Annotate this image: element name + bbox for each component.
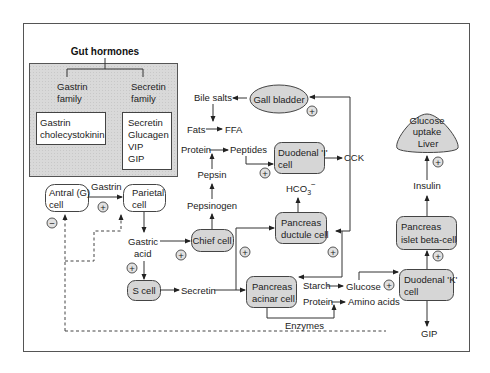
svg-text:islet beta-cell: islet beta-cell [401,234,456,245]
gastrin-family-member: cholecystokinin [40,129,104,140]
gut-hormones-diagram: Gut hormones Gastrin family Secretin fam… [0,0,490,373]
secretin-label: Secretin [181,285,216,296]
antral-g-cell: Antral (G) cell [46,185,91,212]
s-cell: S cell [128,281,161,301]
svg-text:ductule cell: ductule cell [281,229,329,240]
gastric-acid-label: Gastric [128,236,158,247]
secretin-family-label: Secretin [131,81,166,92]
svg-text:Duodenal 'K': Duodenal 'K' [404,274,457,285]
svg-text:acinar cell: acinar cell [252,293,295,304]
gastrin-label: Gastrin [91,181,122,192]
svg-text:cell: cell [404,286,418,297]
amino-acids-label: Amino acids [348,296,400,307]
parietal-cell: Parietal cell [124,185,166,212]
gastrin-family-member: Gastrin [40,117,71,128]
svg-text:Chief cell: Chief cell [192,235,231,246]
svg-text:uptake: uptake [413,126,442,137]
svg-text:Pancreas: Pancreas [401,221,441,232]
svg-text:+: + [435,251,441,262]
svg-text:cell: cell [132,199,146,210]
svg-text:+: + [178,250,184,261]
secretin-family-member: Secretin [128,117,163,128]
svg-text:+: + [386,280,392,291]
svg-text:+: + [435,157,441,168]
svg-text:Glucose: Glucose [410,115,445,126]
svg-text:+: + [100,202,106,213]
pancreas-ductule-cell: Pancreas ductule cell [276,213,329,244]
fats-label: Fats [187,124,206,135]
bile-salts-label: Bile salts [194,92,232,103]
glucose-label: Glucose [346,281,381,292]
svg-text:Parietal: Parietal [132,187,164,198]
secretin-family-member: VIP [128,141,143,152]
duodenal-k-cell: Duodenal 'K' cell [400,270,458,301]
insulin-label: Insulin [413,180,440,191]
cck-label: CCK [344,152,365,163]
svg-text:acid: acid [134,248,151,259]
svg-text:S cell: S cell [132,285,155,296]
svg-text:+: + [262,168,268,179]
svg-text:−: − [49,218,55,229]
starch-label: Starch [303,280,330,291]
enzymes-label: Enzymes [285,320,324,331]
svg-text:family: family [131,93,156,104]
svg-text:+: + [309,106,315,117]
svg-text:cell: cell [278,159,292,170]
svg-text:cell: cell [49,199,63,210]
protein-label: Protein [181,144,211,155]
secretin-family-member: GIP [128,153,144,164]
svg-text:Gall bladder: Gall bladder [253,94,304,105]
gastrin-family-label: Gastrin [57,81,88,92]
gall-bladder: Gall bladder [250,85,308,113]
svg-text:family: family [57,93,82,104]
pancreas-acinar-cell: Pancreas acinar cell [247,277,297,308]
svg-text:Antral (G): Antral (G) [49,187,90,198]
legend-title: Gut hormones [71,46,140,57]
svg-text:Duodenal 'I': Duodenal 'I' [278,147,328,158]
svg-text:+: + [242,247,248,258]
pepsinogen-label: Pepsinogen [187,200,237,211]
peptides-label: Peptides [230,144,267,155]
gut-hormones-legend: Gut hormones Gastrin family Secretin fam… [30,46,178,177]
svg-text:Liver: Liver [418,138,439,149]
ffa-label: FFA [225,124,243,135]
protein-bottom-label: Protein [303,296,333,307]
chief-cell: Chief cell [192,230,234,252]
svg-text:+: + [330,247,336,258]
pepsin-label: Pepsin [197,169,226,180]
pancreas-islet-beta-cell: Pancreas islet beta-cell [397,217,457,250]
gip-label: GIP [421,328,437,339]
svg-text:Pancreas: Pancreas [252,281,292,292]
secretin-family-member: Glucagen [128,129,169,140]
svg-text:+: + [129,263,135,274]
svg-text:Pancreas: Pancreas [281,217,321,228]
duodenal-i-cell: Duodenal 'I' cell [275,143,328,174]
